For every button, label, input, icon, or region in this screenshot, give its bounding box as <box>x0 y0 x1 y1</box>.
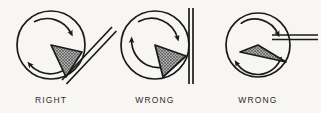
technical-diagram: RIGHT WRONG WRONG <box>0 0 321 113</box>
panel-caption-right: RIGHT <box>35 95 67 105</box>
figure-container: RIGHT WRONG WRONG <box>0 0 321 113</box>
panel-caption-wrong-horizontal: WRONG <box>238 95 277 105</box>
panel-caption-wrong-vertical: WRONG <box>135 95 174 105</box>
